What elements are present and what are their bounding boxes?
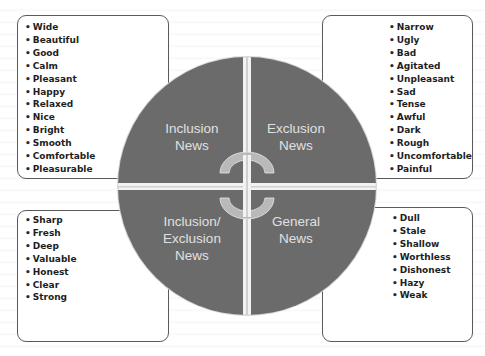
quadrant-label-inclusion: Inclusion News — [147, 120, 237, 154]
word-list-inclusion-exclusion: Sharp Fresh Deep Valuable Honest Clear S… — [25, 214, 77, 304]
list-item: Comfortable — [25, 150, 95, 163]
label-line: News — [251, 137, 341, 154]
list-item: Wide — [25, 21, 95, 34]
list-item: Relaxed — [25, 98, 95, 111]
list-item: Ugly — [389, 34, 472, 47]
list-item: Pleasurable — [25, 163, 95, 176]
quadrant-label-general: General News — [251, 213, 341, 247]
label-line: General — [251, 213, 341, 230]
list-item: Dishonest — [392, 264, 451, 277]
list-item: Painful — [389, 163, 472, 176]
list-item: Worthless — [392, 251, 451, 264]
quadrant-circle-graphic — [116, 55, 378, 317]
list-item: Shallow — [392, 238, 451, 251]
list-item: Narrow — [389, 21, 472, 34]
list-item: Dark — [389, 124, 472, 137]
label-line: Exclusion — [147, 230, 237, 247]
list-item: Good — [25, 47, 95, 60]
list-item: Dull — [392, 212, 451, 225]
list-item: Beautiful — [25, 34, 95, 47]
list-item: Honest — [25, 266, 77, 279]
label-line: News — [147, 137, 237, 154]
list-item: Stale — [392, 225, 451, 238]
list-item: Awful — [389, 111, 472, 124]
list-item: Unpleasant — [389, 73, 472, 86]
list-item: Rough — [389, 137, 472, 150]
list-item: Strong — [25, 291, 77, 304]
list-item: Deep — [25, 240, 77, 253]
list-item: Agitated — [389, 60, 472, 73]
quadrant-label-exclusion: Exclusion News — [251, 120, 341, 154]
list-item: Sad — [389, 86, 472, 99]
label-line: Inclusion/ — [147, 213, 237, 230]
quadrant-circle: Inclusion News Exclusion News Inclusion/… — [116, 55, 378, 317]
list-item: Clear — [25, 279, 77, 292]
list-item: Weak — [392, 289, 451, 302]
list-item: Nice — [25, 111, 95, 124]
list-item: Hazy — [392, 277, 451, 290]
label-line: News — [147, 247, 237, 264]
list-item: Smooth — [25, 137, 95, 150]
list-item: Tense — [389, 98, 472, 111]
label-line: Inclusion — [147, 120, 237, 137]
list-item: Valuable — [25, 253, 77, 266]
label-line: Exclusion — [251, 120, 341, 137]
list-item: Uncomfortable — [389, 150, 472, 163]
list-item: Sharp — [25, 214, 77, 227]
word-list-inclusion: Wide Beautiful Good Calm Pleasant Happy … — [25, 21, 95, 176]
list-item: Bad — [389, 47, 472, 60]
word-list-exclusion: Narrow Ugly Bad Agitated Unpleasant Sad … — [389, 21, 472, 176]
list-item: Bright — [25, 124, 95, 137]
list-item: Happy — [25, 86, 95, 99]
list-item: Fresh — [25, 227, 77, 240]
list-item: Calm — [25, 60, 95, 73]
quadrant-label-inclusion-exclusion: Inclusion/ Exclusion News — [147, 213, 237, 264]
label-line: News — [251, 230, 341, 247]
list-item: Pleasant — [25, 73, 95, 86]
word-list-general: Dull Stale Shallow Worthless Dishonest H… — [392, 212, 451, 302]
